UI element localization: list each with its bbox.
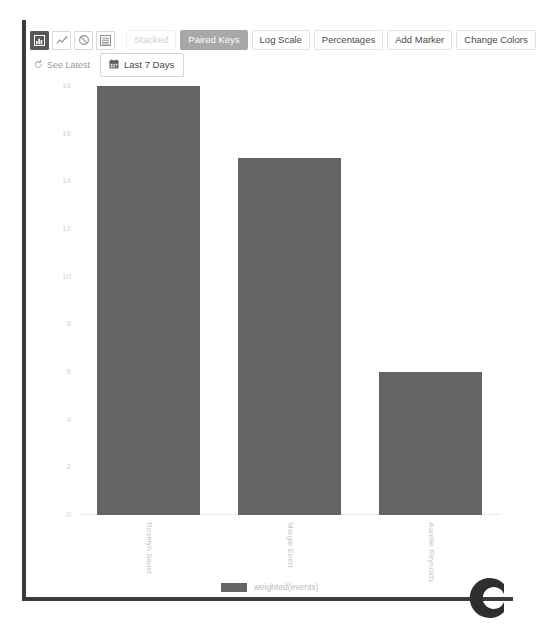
no-chart-icon-button[interactable] <box>74 31 93 50</box>
y-axis-tick-label: 14 <box>62 177 71 185</box>
y-axis-tick-label: 0 <box>67 511 71 519</box>
paired-keys-button[interactable]: Paired Keys <box>180 30 247 51</box>
bar[interactable] <box>97 86 201 515</box>
y-axis-tick-label: 6 <box>67 368 71 376</box>
y-axis-tick-label: 18 <box>62 82 71 90</box>
c-logo <box>460 571 513 624</box>
y-axis-tick-label: 16 <box>62 130 71 138</box>
stacked-button: Stacked <box>126 30 176 51</box>
legend-label: weighted(events) <box>254 583 319 592</box>
y-axis-tick-label: 2 <box>67 463 71 471</box>
y-axis-tick-label: 8 <box>67 320 71 328</box>
bar-chart-icon-button[interactable] <box>30 31 49 50</box>
chart-legend: weighted(events) <box>26 583 513 592</box>
x-axis-tick-label: Aurelie Reynolds <box>427 522 435 582</box>
plot-area: 024681012141618 Roselyn SauerMargie Eber… <box>78 86 501 515</box>
chart-subtoolbar: See Latest Last 7 Days <box>34 54 184 76</box>
refresh-icon <box>34 60 43 71</box>
chart-toolbar: Stacked Paired Keys Log Scale Percentage… <box>30 29 540 51</box>
add-marker-button[interactable]: Add Marker <box>387 30 452 51</box>
x-axis-tick-label: Roselyn Sauer <box>145 522 153 574</box>
x-axis-tick-label: Margie Ebert <box>286 522 294 568</box>
see-latest-label: See Latest <box>47 60 90 70</box>
date-range-label: Last 7 Days <box>124 60 174 70</box>
y-axis-tick-label: 12 <box>62 225 71 233</box>
bar-chart-icon <box>34 35 45 46</box>
y-axis-tick-label: 4 <box>67 416 71 424</box>
bar[interactable] <box>238 158 342 516</box>
bar[interactable] <box>379 372 483 515</box>
y-axis-tick-label: 10 <box>62 273 71 281</box>
chart-panel: Stacked Paired Keys Log Scale Percentage… <box>26 21 513 597</box>
chart-canvas: 024681012141618 Roselyn SauerMargie Eber… <box>26 76 513 597</box>
table-view-icon <box>100 35 111 46</box>
calendar-icon <box>109 59 119 71</box>
legend-swatch <box>221 583 247 592</box>
log-scale-button[interactable]: Log Scale <box>252 30 310 51</box>
change-colors-button[interactable]: Change Colors <box>456 30 535 51</box>
line-chart-icon <box>56 35 68 46</box>
chart-type-icon-group <box>30 31 118 50</box>
no-chart-icon <box>78 34 90 46</box>
see-latest-button[interactable]: See Latest <box>34 60 90 71</box>
percentages-button[interactable]: Percentages <box>314 30 383 51</box>
window-frame-bottom-border <box>22 597 513 601</box>
line-chart-icon-button[interactable] <box>52 31 71 50</box>
table-view-icon-button[interactable] <box>96 31 115 50</box>
date-range-selector[interactable]: Last 7 Days <box>100 53 184 78</box>
